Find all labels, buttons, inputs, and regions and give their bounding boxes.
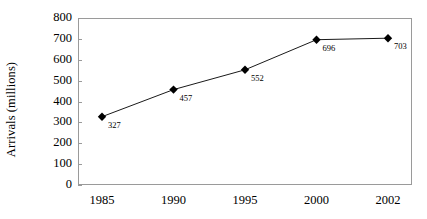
- data-point-marker: [384, 34, 392, 42]
- data-point-marker: [312, 36, 320, 44]
- data-point-marker: [98, 113, 106, 121]
- data-point-marker: [241, 66, 249, 74]
- data-point-label: 703: [394, 42, 407, 51]
- data-point-label: 457: [180, 94, 193, 103]
- data-series-arrivals: [0, 0, 427, 219]
- data-point-label: 327: [108, 121, 121, 130]
- data-point-label: 552: [251, 74, 264, 83]
- series-line: [102, 38, 388, 117]
- data-point-marker: [169, 85, 177, 93]
- data-point-label: 696: [323, 44, 336, 53]
- line-chart: Arrivals (millions) 80070060050040030020…: [0, 0, 427, 219]
- series-marker-group: [98, 34, 392, 121]
